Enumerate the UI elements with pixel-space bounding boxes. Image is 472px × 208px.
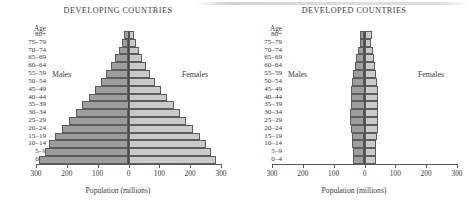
bar-male xyxy=(39,156,128,164)
bar-female xyxy=(129,70,151,78)
x-axis-tick-label: 100 xyxy=(154,169,165,178)
bar-female xyxy=(129,31,135,39)
bar-female xyxy=(129,86,162,94)
bar-male xyxy=(106,70,128,78)
bar-male xyxy=(49,140,129,148)
bar-female xyxy=(365,54,375,62)
bar-female xyxy=(365,117,379,125)
bar-male xyxy=(351,125,365,133)
bar-female xyxy=(365,140,377,148)
x-axis-tick xyxy=(365,164,366,168)
x-axis-tick xyxy=(190,164,191,168)
bar-male xyxy=(62,125,128,133)
bar-male xyxy=(45,148,129,156)
bar-female xyxy=(365,86,379,94)
x-axis-tick xyxy=(98,164,99,168)
bar-female xyxy=(129,47,139,55)
bar-male xyxy=(353,148,365,156)
figure-page: DEVELOPING COUNTRIES Age 0–45–910–1415–1… xyxy=(0,0,472,208)
x-axis-tick xyxy=(221,164,222,168)
bar-female xyxy=(129,133,201,141)
x-axis-tick-label: 300 xyxy=(215,169,226,178)
x-axis-tick-label: 0 xyxy=(127,169,131,178)
bar-male xyxy=(69,117,129,125)
bar-male xyxy=(351,86,365,94)
bar-female xyxy=(129,156,217,164)
bar-female xyxy=(365,148,376,156)
pyramid-plot-developed xyxy=(272,31,457,164)
x-axis-tick xyxy=(67,164,68,168)
bar-male xyxy=(76,109,128,117)
bar-male xyxy=(95,86,128,94)
x-axis-tick-label: 200 xyxy=(61,169,72,178)
bar-female xyxy=(129,140,207,148)
bar-female xyxy=(129,117,187,125)
bar-male xyxy=(119,47,129,55)
bar-female xyxy=(129,78,156,86)
series-label-males-left: Males xyxy=(52,70,71,79)
bar-female xyxy=(365,39,371,47)
x-axis-tick-label: 100 xyxy=(92,169,103,178)
bar-female xyxy=(129,148,212,156)
bar-male xyxy=(89,94,128,102)
center-axis-right xyxy=(364,31,365,164)
bar-female xyxy=(365,31,372,39)
bar-male xyxy=(350,109,364,117)
bar-female xyxy=(129,62,147,70)
series-label-females-left: Females xyxy=(182,70,208,79)
chart-title-developing: DEVELOPING COUNTRIES xyxy=(0,6,236,15)
bar-female xyxy=(129,94,168,102)
pyramid-plot-developing xyxy=(36,31,221,164)
x-axis-tick xyxy=(129,164,130,168)
x-axis-caption-right: Population (millions) xyxy=(236,186,472,195)
x-axis-tick-label: 300 xyxy=(266,169,277,178)
x-axis-tick-label: 300 xyxy=(451,169,462,178)
bar-male xyxy=(352,140,364,148)
x-axis-tick-label: 200 xyxy=(185,169,196,178)
x-axis-tick-label: 200 xyxy=(421,169,432,178)
bar-female xyxy=(365,156,376,164)
bar-female xyxy=(129,109,180,117)
x-axis-tick xyxy=(272,164,273,168)
x-axis-tick-label: 0 xyxy=(363,169,367,178)
bar-male xyxy=(352,133,365,141)
x-axis-tick-label: 200 xyxy=(297,169,308,178)
bar-male xyxy=(351,94,365,102)
chart-panel-developed: DEVELOPED COUNTRIES Age 0–45–910–1415–19… xyxy=(236,0,472,208)
chart-title-developed: DEVELOPED COUNTRIES xyxy=(236,6,472,15)
bar-female xyxy=(365,101,379,109)
bar-male xyxy=(351,101,365,109)
bar-female xyxy=(365,78,378,86)
bar-male xyxy=(350,117,364,125)
bar-female xyxy=(365,109,379,117)
bar-female xyxy=(365,70,377,78)
x-axis-tick xyxy=(303,164,304,168)
series-label-males-right: Males xyxy=(288,70,307,79)
bar-male xyxy=(82,101,128,109)
bar-male xyxy=(115,54,128,62)
bar-female xyxy=(365,133,377,141)
bar-male xyxy=(352,78,364,86)
x-axis-tick xyxy=(334,164,335,168)
center-axis-left xyxy=(128,31,129,164)
bar-female xyxy=(365,47,373,55)
x-axis-tick xyxy=(395,164,396,168)
x-axis-tick xyxy=(426,164,427,168)
bar-male xyxy=(353,156,365,164)
bar-male xyxy=(353,70,364,78)
bar-male xyxy=(111,62,129,70)
bar-female xyxy=(365,94,379,102)
bar-female xyxy=(365,62,375,70)
bar-male xyxy=(55,133,128,141)
bar-male xyxy=(101,78,128,86)
bar-male xyxy=(355,62,365,70)
x-axis-tick-label: 100 xyxy=(390,169,401,178)
bar-female xyxy=(129,39,136,47)
bar-female xyxy=(129,101,174,109)
x-axis-tick xyxy=(36,164,37,168)
x-axis-tick-label: 300 xyxy=(30,169,41,178)
bar-female xyxy=(365,125,378,133)
x-axis-tick xyxy=(159,164,160,168)
bar-female xyxy=(129,54,143,62)
bar-female xyxy=(129,125,194,133)
